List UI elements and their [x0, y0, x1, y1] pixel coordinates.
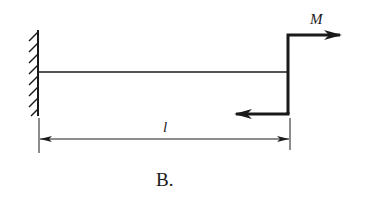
figure-caption: B. — [156, 169, 173, 190]
length-label: l — [163, 119, 167, 135]
moment-label: M — [309, 11, 324, 27]
fixed-support — [29, 30, 38, 116]
wall-hatching — [29, 32, 38, 116]
cantilever-diagram: M l B. — [0, 0, 370, 206]
moment-symbol — [236, 35, 340, 114]
